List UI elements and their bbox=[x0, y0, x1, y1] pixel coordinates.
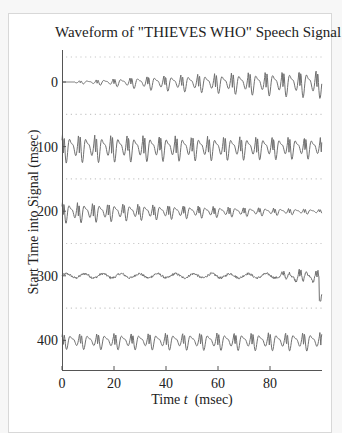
y-tick-label: 0 bbox=[51, 75, 58, 90]
y-tick-label: 400 bbox=[37, 333, 58, 348]
chart-title: Waveform of "THIEVES WHO" Speech Signal bbox=[55, 24, 341, 40]
row-separators bbox=[66, 57, 322, 308]
waveform-row-200 bbox=[62, 202, 322, 223]
x-ticks: 020406080 bbox=[59, 366, 278, 391]
waveform-row-400 bbox=[62, 333, 322, 352]
y-axis-label: Start Time into Signal (msec) bbox=[26, 129, 42, 294]
waveform-row-300 bbox=[62, 269, 322, 301]
x-tick-label: 80 bbox=[263, 376, 277, 391]
waveform-rows bbox=[62, 71, 322, 351]
waveform-row-100 bbox=[62, 135, 322, 164]
x-tick-label: 40 bbox=[159, 376, 173, 391]
waveform-row-0 bbox=[62, 71, 322, 98]
x-tick-label: 60 bbox=[211, 376, 225, 391]
y-ticks: 0100200300400 bbox=[37, 75, 66, 348]
x-tick-label: 20 bbox=[107, 376, 121, 391]
x-tick-label: 0 bbox=[59, 376, 66, 391]
x-axis-label: Time t (msec) bbox=[151, 392, 233, 408]
